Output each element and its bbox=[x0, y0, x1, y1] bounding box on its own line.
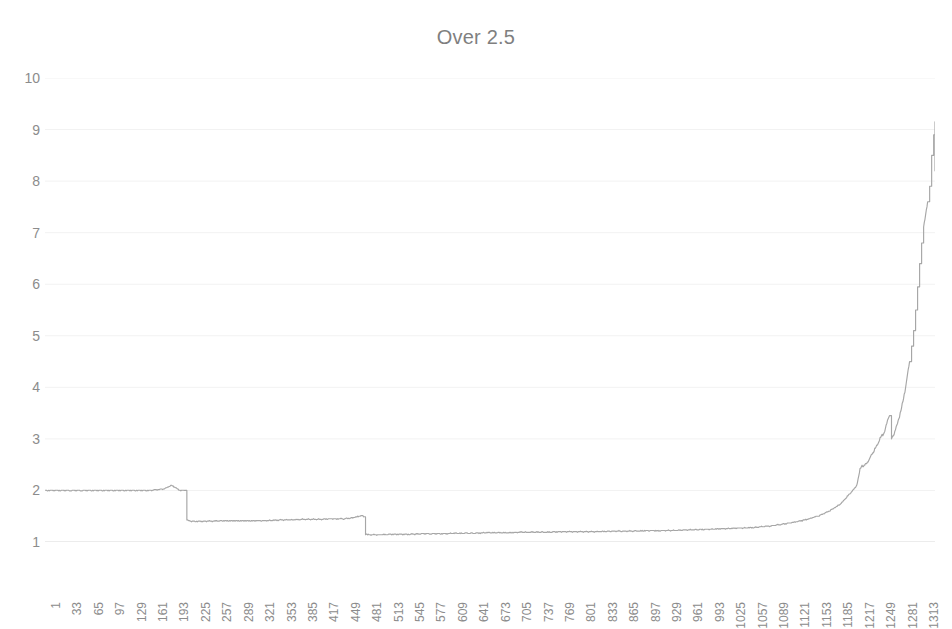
x-tick-label: 897 bbox=[649, 602, 663, 622]
x-tick-label: 97 bbox=[113, 602, 127, 615]
x-tick-label: 961 bbox=[691, 602, 705, 622]
y-axis-labels: 12345678910 bbox=[0, 78, 40, 542]
x-tick-label: 193 bbox=[177, 602, 191, 622]
x-tick-label: 353 bbox=[285, 602, 299, 622]
x-tick-label: 1089 bbox=[777, 602, 791, 629]
y-tick-label: 6 bbox=[2, 277, 40, 291]
y-tick-label: 1 bbox=[2, 535, 40, 549]
x-tick-label: 417 bbox=[327, 602, 341, 622]
y-tick-label: 8 bbox=[2, 174, 40, 188]
x-tick-label: 1281 bbox=[906, 602, 920, 629]
series-group bbox=[45, 122, 935, 536]
x-tick-label: 833 bbox=[606, 602, 620, 622]
x-tick-label: 577 bbox=[434, 602, 448, 622]
y-tick-label: 2 bbox=[2, 483, 40, 497]
x-tick-label: 1057 bbox=[756, 602, 770, 629]
plot-area bbox=[45, 78, 935, 542]
x-tick-label: 1025 bbox=[734, 602, 748, 629]
gridlines-group bbox=[45, 78, 935, 490]
x-tick-label: 321 bbox=[263, 602, 277, 622]
y-tick-label: 4 bbox=[2, 380, 40, 394]
x-tick-label: 929 bbox=[670, 602, 684, 622]
x-tick-label: 737 bbox=[542, 602, 556, 622]
chart-title: Over 2.5 bbox=[0, 26, 952, 49]
x-tick-label: 1121 bbox=[798, 602, 812, 628]
y-tick-label: 10 bbox=[2, 71, 40, 85]
x-tick-label: 705 bbox=[520, 602, 534, 622]
x-tick-label: 993 bbox=[713, 602, 727, 622]
x-tick-label: 673 bbox=[499, 602, 513, 622]
x-tick-label: 1313 bbox=[927, 602, 941, 629]
x-tick-label: 641 bbox=[477, 602, 491, 622]
x-tick-label: 129 bbox=[135, 602, 149, 622]
x-tick-label: 801 bbox=[584, 602, 598, 622]
y-tick-label: 3 bbox=[2, 432, 40, 446]
y-tick-label: 9 bbox=[2, 123, 40, 137]
x-tick-label: 545 bbox=[413, 602, 427, 622]
x-tick-label: 1185 bbox=[841, 602, 855, 628]
x-tick-label: 161 bbox=[156, 602, 170, 622]
x-tick-label: 225 bbox=[199, 602, 213, 622]
x-tick-label: 385 bbox=[306, 602, 320, 622]
y-tick-label: 7 bbox=[2, 226, 40, 240]
y-tick-label: 5 bbox=[2, 329, 40, 343]
x-tick-label: 257 bbox=[220, 602, 234, 622]
x-tick-label: 1 bbox=[49, 602, 63, 609]
x-tick-label: 449 bbox=[349, 602, 363, 622]
data-series-line bbox=[45, 122, 935, 536]
x-tick-label: 481 bbox=[370, 602, 384, 622]
x-tick-label: 865 bbox=[627, 602, 641, 622]
x-tick-label: 33 bbox=[70, 602, 84, 615]
x-axis-labels: 1336597129161193225257289321353385417449… bbox=[45, 546, 935, 608]
line-chart-svg bbox=[45, 78, 935, 542]
x-tick-label: 65 bbox=[92, 602, 106, 615]
x-tick-label: 769 bbox=[563, 602, 577, 622]
x-tick-label: 289 bbox=[242, 602, 256, 622]
x-tick-label: 1249 bbox=[884, 602, 898, 629]
x-tick-label: 609 bbox=[456, 602, 470, 622]
x-tick-label: 1153 bbox=[820, 602, 834, 628]
x-tick-label: 1217 bbox=[863, 602, 877, 629]
x-tick-label: 513 bbox=[392, 602, 406, 622]
